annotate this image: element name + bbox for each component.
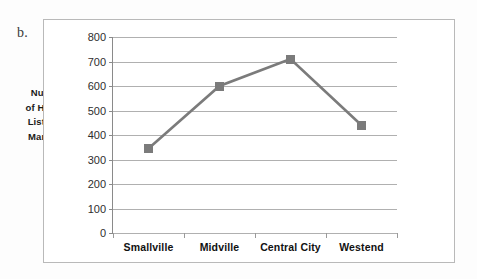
- data-point-marker[interactable]: [357, 121, 366, 130]
- y-tick-label: 500: [88, 105, 106, 117]
- y-tick-label: 100: [88, 203, 106, 215]
- y-tick-label: 400: [88, 129, 106, 141]
- series-line: [113, 37, 397, 233]
- x-category-label: Smallville: [124, 241, 174, 253]
- x-category-label: Central City: [260, 241, 321, 253]
- y-tick-label: 600: [88, 80, 106, 92]
- data-point-marker[interactable]: [144, 144, 153, 153]
- x-tick-mark: [255, 233, 256, 238]
- chart-frame: 0100200300400500600700800 SmallvilleMidv…: [43, 19, 455, 263]
- y-tick-label: 200: [88, 178, 106, 190]
- y-tick-label: 800: [88, 31, 106, 43]
- y-tick-label: 700: [88, 56, 106, 68]
- x-category-label: Westend: [339, 241, 384, 253]
- x-tick-mark: [113, 233, 114, 238]
- figure-item-label: b.: [17, 25, 28, 41]
- x-tick-mark: [184, 233, 185, 238]
- y-tick-label: 0: [100, 227, 106, 239]
- x-tick-mark: [397, 233, 398, 238]
- data-point-marker[interactable]: [286, 55, 295, 64]
- figure-root: b. Number of Houses Listed in March 09 0…: [0, 0, 477, 279]
- x-tick-mark: [326, 233, 327, 238]
- data-point-marker[interactable]: [215, 82, 224, 91]
- plot-area: 0100200300400500600700800 SmallvilleMidv…: [113, 37, 397, 233]
- y-tick-label: 300: [88, 154, 106, 166]
- x-category-label: Midville: [200, 241, 240, 253]
